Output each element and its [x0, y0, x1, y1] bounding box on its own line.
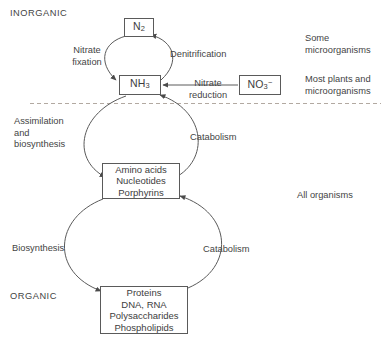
nitrogen-cycle-diagram: INORGANIC ORGANIC N2 NH3 NO3− Amino acid… [0, 0, 386, 352]
region-label-inorganic: INORGANIC [10, 8, 67, 18]
label-biosynthesis: Biosynthesis [12, 243, 64, 255]
label-most-plants-and-microorganisms: Most plants and microorganisms [305, 74, 371, 97]
node-nh3: NH3 [119, 75, 161, 95]
node-macromolecules: Proteins DNA, RNA Polysaccharides Phosph… [100, 286, 188, 334]
node-macromolecules-line-1: Proteins [127, 287, 162, 299]
node-metabolites-line-2: Nucleotides [116, 175, 166, 187]
node-macromolecules-line-4: Phospholipids [114, 322, 173, 334]
label-catabolism-upper: Catabolism [190, 132, 237, 144]
label-assimilation-biosynthesis: Assimilation and biosynthesis [14, 116, 65, 151]
node-macromolecules-line-3: Polysaccharides [109, 310, 178, 322]
label-all-organisms: All organisms [297, 190, 353, 202]
node-metabolites-line-3: Porphyrins [118, 187, 163, 199]
label-denitrification: Denitrification [170, 49, 226, 61]
node-macromolecules-line-2: DNA, RNA [121, 299, 166, 311]
node-metabolites-line-1: Amino acids [115, 164, 167, 176]
node-no3-formula: NO3− [247, 77, 272, 93]
arrow-biosynthesis [64, 199, 103, 291]
node-no3: NO3− [239, 75, 281, 95]
node-nh3-formula: NH3 [130, 78, 150, 92]
label-some-microorganisms: Some microorganisms [305, 33, 371, 56]
node-metabolites: Amino acids Nucleotides Porphyrins [102, 163, 180, 199]
label-catabolism-lower: Catabolism [203, 244, 250, 256]
region-label-organic: ORGANIC [10, 291, 57, 301]
node-n2: N2 [124, 18, 154, 37]
node-n2-formula: N2 [133, 21, 145, 35]
arrow-catabolism-lower [180, 196, 222, 288]
label-nitrate-reduction: Nitrate reduction [181, 78, 235, 101]
label-nitrate-fixation: Nitrate fixation [63, 45, 111, 68]
